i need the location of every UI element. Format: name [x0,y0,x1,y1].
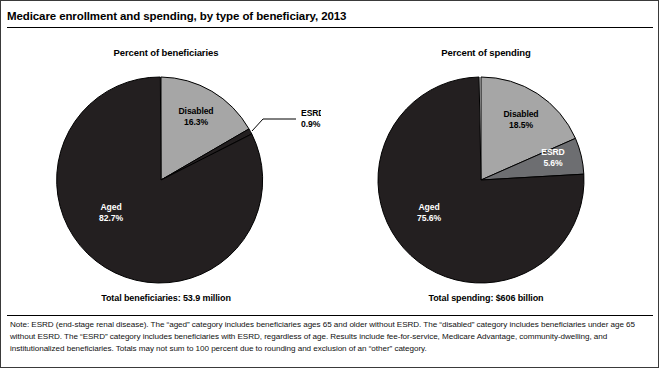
title-bar: Medicare enrollment and spending, by typ… [7,6,653,26]
slice-label-esrd-value: 5.6% [543,158,563,168]
figure-note: Note: ESRD (end-stage renal disease). Th… [10,319,650,355]
slice-label-aged-value: 75.6% [417,213,441,223]
pie-chart-spending: Disabled 18.5% ESRD 5.6% Aged 75.6% [331,67,641,293]
page-title: Medicare enrollment and spending, by typ… [7,6,653,26]
title-divider [7,27,653,28]
slice-label-esrd-name: ESRD [541,147,564,157]
chart-panel-spending: Percent of spending Disabled 18.5% ESRD … [331,41,641,313]
slice-label-disabled-value: 16.3% [184,117,208,127]
slice-label-aged-value: 82.7% [99,213,123,223]
note-divider [7,315,653,316]
esrd-leader-line [252,119,296,131]
pie-svg-beneficiaries: Disabled 16.3% Aged 82.7% ESRD 0.9% [11,67,321,293]
pie-chart-beneficiaries: Disabled 16.3% Aged 82.7% ESRD 0.9% [11,67,321,293]
chart-title-spending: Percent of spending [331,47,641,58]
figure-container: Medicare enrollment and spending, by typ… [0,0,659,368]
slice-label-aged-name: Aged [100,202,121,212]
slice-label-disabled-name: Disabled [503,109,538,119]
chart-total-beneficiaries: Total beneficiaries: 53.9 million [11,293,321,303]
chart-total-spending: Total spending: $606 billion [331,293,641,303]
chart-panel-beneficiaries: Percent of beneficiaries Disabled 16.3% … [11,41,321,313]
slice-label-aged-name: Aged [418,202,439,212]
chart-title-beneficiaries: Percent of beneficiaries [11,47,321,58]
slice-label-disabled-value: 18.5% [509,120,533,130]
slice-label-disabled-name: Disabled [178,106,213,116]
pie-svg-spending: Disabled 18.5% ESRD 5.6% Aged 75.6% [331,67,641,293]
callout-label-esrd-name: ESRD [301,108,321,118]
callout-label-esrd-value: 0.9% [301,119,321,129]
